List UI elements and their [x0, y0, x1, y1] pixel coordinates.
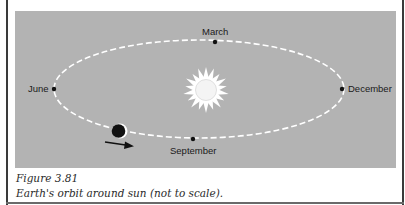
march-marker-dot [213, 40, 217, 44]
june-label: June [28, 84, 49, 94]
right-rule-line [402, 0, 404, 205]
figure-page: March June September December Figure 3.8… [0, 0, 405, 205]
september-label: September [170, 146, 216, 156]
bottom-rule-line [6, 202, 404, 204]
march-label: March [202, 27, 228, 37]
figure-number: Figure 3.81 [16, 173, 78, 184]
earth-icon [112, 124, 128, 139]
december-label: December [348, 84, 392, 94]
september-marker-dot [191, 137, 195, 141]
figure-caption: Earth's orbit around sun (not to scale). [16, 188, 223, 199]
december-marker-dot [340, 87, 344, 91]
left-rule-line [6, 0, 8, 205]
orbit-diagram-panel: March June September December [15, 11, 396, 168]
june-marker-dot [52, 87, 56, 91]
sun-icon [183, 67, 229, 113]
direction-arrow-icon [105, 142, 134, 150]
